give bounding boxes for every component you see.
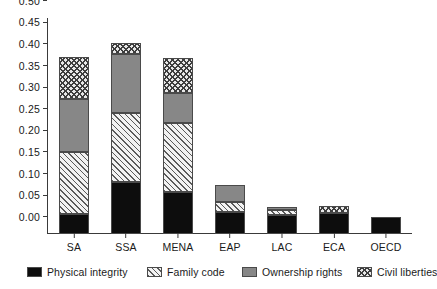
x-tick-mark [333, 233, 334, 238]
bar-segment-lac-ownership-rights [267, 207, 297, 210]
y-tick-label: 0.45 [19, 16, 40, 28]
legend-item-ownership-rights[interactable]: Ownership rights [242, 266, 342, 278]
bar-segment-mena-family-code [163, 123, 193, 192]
legend-item-physical-integrity[interactable]: Physical integrity [27, 266, 128, 278]
bar-segment-sa-family-code [59, 152, 89, 214]
bar-lac [267, 207, 297, 234]
bar-sa [59, 57, 89, 234]
y-tick-label: 0.25 [19, 103, 40, 115]
y-tick-label: 0.35 [19, 60, 40, 72]
y-tick-mark [43, 195, 47, 196]
y-tick-0.50: 0.50 [19, 0, 47, 9]
y-tick-0.15: 0.15 [19, 142, 47, 160]
x-tick-mark [126, 233, 127, 238]
legend-swatch-physical-integrity [27, 267, 42, 277]
legend-label-physical-integrity: Physical integrity [47, 266, 128, 278]
legend-label-family-code: Family code [167, 266, 225, 278]
bar-segment-eap-physical-integrity [215, 212, 245, 234]
legend-swatch-family-code [147, 267, 162, 277]
y-tick-mark [43, 108, 47, 109]
bar-segment-ssa-family-code [111, 113, 141, 182]
bar-segment-eca-physical-integrity [319, 213, 349, 234]
legend-item-family-code[interactable]: Family code [147, 266, 225, 278]
x-tick-label: LAC [271, 241, 292, 253]
y-tick-mark [43, 65, 47, 66]
bar-segment-sa-civil-liberties [59, 57, 89, 99]
bar-segment-ssa-ownership-rights [111, 54, 141, 113]
x-tick-label: MENA [162, 241, 193, 253]
bar-segment-eca-civil-liberties [319, 206, 349, 214]
x-tick-mark [282, 233, 283, 238]
bar-segment-mena-physical-integrity [163, 192, 193, 234]
x-tick-label: SA [67, 241, 81, 253]
y-tick-0.20: 0.20 [19, 121, 47, 139]
bar-segment-mena-ownership-rights [163, 93, 193, 123]
y-tick-0.00: 0.00 [19, 207, 47, 225]
y-tick-label: 0.30 [19, 81, 40, 93]
x-axis-ticks: SASSAMENAEAPLACECAOECD [48, 233, 412, 259]
x-tick-ssa: SSA [115, 233, 137, 253]
y-tick-label: 0.20 [19, 124, 40, 136]
bar-segment-sa-physical-integrity [59, 214, 89, 234]
x-tick-eca: ECA [323, 233, 345, 253]
y-tick-label: 0.00 [19, 211, 40, 223]
bar-eca [319, 206, 349, 235]
legend-label-civil-liberties: Civil liberties [377, 266, 437, 278]
bar-segment-oecd-physical-integrity [371, 217, 401, 234]
x-tick-mark [230, 233, 231, 238]
bar-group-eap [204, 18, 256, 234]
bar-group-lac [256, 18, 308, 234]
y-tick-mark [43, 173, 47, 174]
bar-group-eca [308, 18, 360, 234]
y-tick-0.40: 0.40 [19, 34, 47, 52]
x-tick-oecd: OECD [370, 233, 401, 253]
bar-segment-eap-ownership-rights [215, 185, 245, 202]
y-tick-0.25: 0.25 [19, 99, 47, 117]
bar-segment-ssa-physical-integrity [111, 182, 141, 234]
y-tick-0.05: 0.05 [19, 185, 47, 203]
bar-group-oecd [360, 18, 412, 234]
bar-segment-lac-physical-integrity [267, 215, 297, 234]
x-tick-mark [73, 233, 74, 238]
bar-group-ssa [100, 18, 152, 234]
y-tick-0.30: 0.30 [19, 77, 47, 95]
x-tick-mark [177, 233, 178, 238]
bar-oecd [371, 217, 401, 234]
y-tick-0.35: 0.35 [19, 56, 47, 74]
y-tick-0.45: 0.45 [19, 13, 47, 31]
x-tick-sa: SA [67, 233, 81, 253]
bar-group-mena [152, 18, 204, 234]
bar-ssa [111, 43, 141, 234]
x-tick-mark [385, 233, 386, 238]
x-tick-label: SSA [115, 241, 137, 253]
bar-segment-mena-civil-liberties [163, 58, 193, 93]
legend-swatch-civil-liberties [357, 267, 372, 277]
y-tick-label: 0.40 [19, 38, 40, 50]
bar-group-sa [48, 18, 100, 234]
x-tick-label: EAP [219, 241, 241, 253]
y-tick-mark [43, 43, 47, 44]
x-tick-mena: MENA [162, 233, 193, 253]
legend-swatch-ownership-rights [242, 267, 257, 277]
y-tick-mark [43, 216, 47, 217]
bar-eap [215, 185, 245, 234]
y-tick-label: 0.15 [19, 146, 40, 158]
bar-segment-lac-family-code [267, 210, 297, 214]
x-tick-label: ECA [323, 241, 345, 253]
y-tick-0.10: 0.10 [19, 164, 47, 182]
y-tick-label: 0.10 [19, 168, 40, 180]
y-tick-mark [43, 87, 47, 88]
y-tick-mark [43, 0, 47, 1]
bar-segment-sa-ownership-rights [59, 99, 89, 152]
y-tick-mark [43, 22, 47, 23]
x-tick-eap: EAP [219, 233, 241, 253]
bar-segment-ssa-civil-liberties [111, 43, 141, 54]
legend-item-civil-liberties[interactable]: Civil liberties [357, 266, 437, 278]
bar-segment-eap-family-code [215, 202, 245, 212]
y-tick-mark [43, 151, 47, 152]
legend-label-ownership-rights: Ownership rights [262, 266, 342, 278]
chart-legend: Physical integrityFamily codeOwnership r… [27, 263, 402, 281]
y-tick-label: 0.05 [19, 189, 40, 201]
x-tick-label: OECD [370, 241, 401, 253]
